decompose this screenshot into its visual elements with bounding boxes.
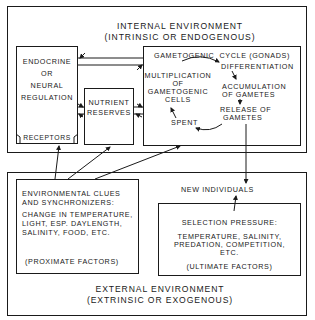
- differentiation-label: DIFFERENTIATION: [221, 63, 294, 72]
- ultimate-factors-label: (ULTIMATE FACTORS): [158, 263, 301, 272]
- receptors-label: RECEPTORS: [18, 134, 76, 143]
- selection-pressure-heading: SELECTION PRESSURE:: [158, 219, 301, 228]
- gametogenic-cycle-title: GAMETOGENIC CYCLE (GONADS): [154, 52, 290, 61]
- clues-body-line3: SALINITY, FOOD, ETC.: [22, 229, 110, 238]
- of-gametes-label: OF GAMETES: [222, 91, 275, 100]
- nutrient-label: NUTRIENT: [84, 99, 134, 108]
- internal-environment-subtitle: (INTRINSIC OR ENDOGENOUS): [60, 32, 300, 43]
- gametes-label: GAMETES: [223, 114, 262, 123]
- reserves-label: RESERVES: [84, 109, 134, 118]
- selection-body-line3: ETC.: [158, 249, 301, 258]
- proximate-factors-label: (PROXIMATE FACTORS): [25, 258, 119, 267]
- internal-environment-title: INTERNAL ENVIRONMENT: [60, 21, 300, 32]
- endocrine-label: ENDOCRINE: [16, 58, 78, 67]
- spent-label: SPENT: [171, 119, 198, 128]
- cells-label: CELLS: [142, 96, 214, 105]
- regulation-label: REGULATION: [16, 94, 78, 103]
- new-individuals-label: NEW INDIVIDUALS: [181, 186, 254, 195]
- external-environment-subtitle: (EXTRINSIC OR EXOGENOUS): [40, 295, 280, 306]
- external-environment-title: EXTERNAL ENVIRONMENT: [40, 284, 280, 295]
- or-label: OR: [16, 70, 78, 79]
- synchronizers-heading: AND SYNCHRONIZERS:: [22, 199, 114, 208]
- neural-label: NEURAL: [16, 82, 78, 91]
